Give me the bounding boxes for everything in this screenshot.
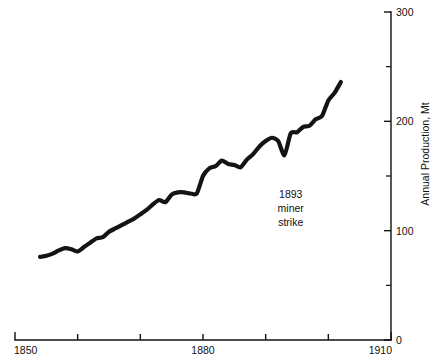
annotation-line: strike [278, 216, 303, 228]
y-axis-tick-label: 200 [396, 115, 414, 127]
chart-background [0, 0, 434, 363]
x-axis-tick-label: 1880 [191, 344, 215, 356]
y-axis-title-group: Annual Production, Mt [419, 102, 431, 205]
y-axis-title: Annual Production, Mt [419, 102, 431, 205]
x-axis-tick-label: 1910 [369, 344, 393, 356]
y-axis-tick-label: 100 [396, 225, 414, 237]
chart-figure: 185018801910 0100200300 1893minerstrike … [0, 0, 434, 363]
annotation-line: 1893 [279, 188, 303, 200]
annotation-group: 1893minerstrike [278, 188, 305, 228]
annotation-line: miner [278, 202, 305, 214]
y-axis-tick-label: 300 [396, 6, 414, 18]
y-axis-tick-label: 0 [396, 334, 402, 346]
chart-canvas: 185018801910 0100200300 1893minerstrike … [0, 0, 434, 363]
x-axis-tick-label: 1850 [14, 344, 38, 356]
